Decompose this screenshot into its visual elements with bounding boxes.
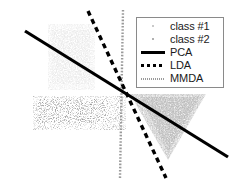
legend-label-lda: LDA <box>167 59 191 72</box>
legend-label-class-1: class #1 <box>167 20 210 33</box>
dashed-line-icon <box>139 59 167 72</box>
legend-item-class-1: class #1 <box>137 20 223 33</box>
mmda-line <box>120 10 123 178</box>
legend-item-pca: PCA <box>137 46 223 59</box>
scatter-dot-icon <box>139 33 167 46</box>
legend-label-pca: PCA <box>167 46 192 59</box>
scatter-figure: class #1 class #2 PCA LDA MMDA <box>0 0 244 183</box>
legend-item-lda: LDA <box>137 59 223 72</box>
legend-label-class-2: class #2 <box>167 33 210 46</box>
legend-item-class-2: class #2 <box>137 33 223 46</box>
scatter-cloud-class1 <box>48 24 95 90</box>
scatter-cloud-class2-band <box>33 96 126 130</box>
legend: class #1 class #2 PCA LDA MMDA <box>136 17 224 88</box>
legend-item-mmda: MMDA <box>137 72 223 85</box>
scatter-dot-icon <box>139 20 167 33</box>
dotted-line-icon <box>139 72 167 85</box>
solid-line-icon <box>139 46 167 59</box>
legend-label-mmda: MMDA <box>167 72 203 85</box>
